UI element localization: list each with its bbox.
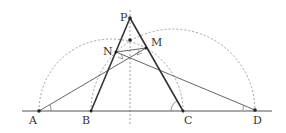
label-b: B: [82, 114, 90, 127]
angle-mark-d: [243, 105, 244, 110]
point-c: [182, 110, 185, 113]
semicircle-bd: [91, 29, 255, 111]
point-d: [253, 108, 257, 112]
point-n: [115, 51, 118, 54]
label-c: C: [184, 114, 192, 127]
segment-dn: [116, 52, 255, 110]
geometry-diagram: P M N A B C D: [0, 0, 286, 133]
label-p: P: [120, 11, 128, 24]
label-n: N: [103, 45, 113, 58]
point-a: [37, 109, 41, 113]
angle-mark-a: [50, 105, 51, 111]
point-b: [90, 110, 93, 113]
point-m: [145, 47, 148, 50]
segment-pc: [130, 18, 183, 111]
angle-mark-c: [171, 101, 177, 111]
segment-nm: [116, 48, 146, 52]
segment-pb: [91, 18, 130, 111]
point-center: [128, 38, 132, 42]
label-m: M: [151, 36, 162, 49]
label-a: A: [28, 114, 38, 127]
point-p: [128, 16, 132, 20]
label-d: D: [253, 114, 262, 127]
